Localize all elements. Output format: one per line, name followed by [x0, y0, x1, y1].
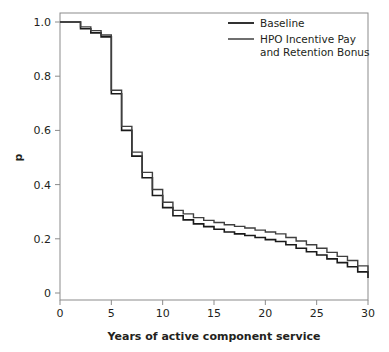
x-tick-label-20: 20 [258, 307, 272, 320]
y-tick-label-0.6: 0.6 [34, 124, 52, 137]
legend-label-2: and Retention Bonus [260, 46, 369, 58]
survival-curve-chart: 05101520253000.20.40.60.81.0 BaselineHPO… [0, 0, 389, 352]
x-tick-label-25: 25 [310, 307, 324, 320]
y-tick-label-0: 0 [44, 287, 51, 300]
series-line-hpo [60, 22, 368, 272]
x-axis-title: Years of active component service [107, 330, 321, 343]
chart-legend: BaselineHPO Incentive Payand Retention B… [228, 17, 369, 58]
x-tick-label-10: 10 [156, 307, 170, 320]
x-tick-label-0: 0 [57, 307, 64, 320]
y-axis-title: p [12, 153, 25, 161]
y-tick-label-0.2: 0.2 [34, 233, 52, 246]
axis-ticks [55, 22, 368, 305]
y-tick-label-0.4: 0.4 [34, 179, 52, 192]
axis-tick-labels: 05101520253000.20.40.60.81.0 [34, 16, 376, 320]
y-tick-label-0.8: 0.8 [34, 70, 52, 83]
series-line-baseline [60, 22, 368, 278]
data-series [60, 22, 368, 278]
legend-label-1: HPO Incentive Pay [260, 33, 356, 45]
x-tick-label-30: 30 [361, 307, 375, 320]
x-tick-label-15: 15 [207, 307, 221, 320]
legend-label-0: Baseline [260, 17, 305, 29]
x-tick-label-5: 5 [108, 307, 115, 320]
figure-container: 05101520253000.20.40.60.81.0 BaselineHPO… [0, 0, 389, 352]
y-tick-label-1: 1.0 [34, 16, 52, 29]
